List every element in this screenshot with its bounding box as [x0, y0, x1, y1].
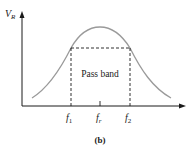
y-axis-arrow-icon	[20, 11, 25, 18]
response-curve	[32, 27, 171, 98]
fr-label: fr	[96, 112, 102, 125]
x-axis-arrow-icon	[179, 104, 186, 109]
y-axis-label: VR	[5, 8, 16, 21]
panel-label: (b)	[95, 135, 106, 145]
passband-label: Pass band	[81, 69, 119, 79]
f2-label: f2	[125, 112, 132, 125]
bandpass-response-diagram: VR Pass band f1 fr f2 (b)	[0, 0, 192, 150]
f1-label: f1	[66, 112, 73, 125]
